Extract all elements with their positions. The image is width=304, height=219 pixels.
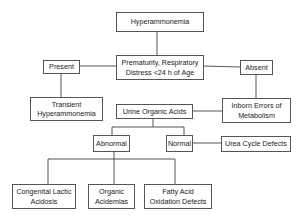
node-prematurity-question: Prematurity, Respiratory Distress <24 h … xyxy=(116,55,204,80)
node-absent: Absent xyxy=(240,60,273,75)
node-present: Present xyxy=(43,60,80,74)
node-fatty-acid-oxidation-defects: Fatty Acid Oxidation Defects xyxy=(144,184,212,209)
node-congenital-lactic-acidosis: Congenital Lactic Acidosis xyxy=(12,184,76,209)
node-hyperammonemia: Hyperammonemia xyxy=(116,12,204,32)
node-urine-organic-acids: Urine Organic Acids xyxy=(116,104,193,119)
node-abnormal: Abnormal xyxy=(93,135,130,152)
node-transient-hyperammonemia: Transient Hyperammonemia xyxy=(30,97,103,121)
node-normal: Normal xyxy=(166,135,193,152)
node-urea-cycle-defects: Urea Cycle Defects xyxy=(221,136,291,152)
node-organic-acidemias: Organic Acidemias xyxy=(88,184,135,209)
node-inborn-errors: Inborn Errors of Metabolism xyxy=(222,98,291,123)
